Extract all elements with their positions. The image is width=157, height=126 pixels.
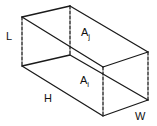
edge-top-left [22,17,103,67]
box-drawing [0,0,157,126]
box-diagram: L Aj Ai H W [0,0,157,126]
edge-top-back [22,6,70,17]
label-height: H [44,93,52,104]
edge-bottom-back [22,55,70,66]
label-area-i: Ai [80,75,89,86]
edge-bottom-left [22,66,103,116]
edge-top-front [103,52,148,67]
label-area-i-sub: i [87,80,89,89]
label-area-j: Aj [81,27,90,38]
label-width: W [135,111,145,122]
label-area-j-sub: j [88,32,90,41]
label-length: L [6,31,12,42]
